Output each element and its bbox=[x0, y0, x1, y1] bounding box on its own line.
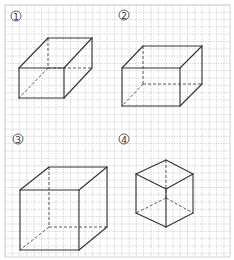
svg-text:2: 2 bbox=[121, 11, 127, 21]
visible-edge bbox=[180, 84, 202, 106]
svg-text:1: 1 bbox=[13, 12, 19, 22]
worksheet-figure: 1 2 3 4 bbox=[0, 0, 234, 260]
visible-edge bbox=[122, 46, 143, 68]
svg-text:4: 4 bbox=[121, 135, 127, 145]
visible-edge bbox=[166, 174, 193, 189]
visible-edge bbox=[79, 167, 107, 190]
hidden-edge bbox=[166, 198, 193, 213]
prism-drawings-on-dot-grid: 1 2 3 4 bbox=[0, 0, 234, 260]
visible-edge bbox=[180, 46, 202, 68]
visible-edge bbox=[166, 160, 193, 174]
dot-grid bbox=[5, 5, 230, 257]
panel-label-2: 2 bbox=[119, 10, 129, 21]
rectangular-prism-1 bbox=[19, 38, 92, 98]
panel-label-4: 4 bbox=[119, 134, 129, 145]
panel-1: 1 bbox=[11, 11, 92, 98]
visible-edge bbox=[19, 38, 48, 68]
panel-label-3: 3 bbox=[13, 134, 23, 145]
panels: 1 2 3 4 bbox=[11, 10, 202, 250]
visible-edge bbox=[166, 213, 193, 227]
hidden-edge bbox=[122, 84, 143, 106]
rectangular-prism-2 bbox=[122, 46, 202, 106]
visible-edge bbox=[20, 167, 49, 190]
visible-edge bbox=[136, 174, 166, 189]
panel-2: 2 bbox=[119, 10, 202, 106]
svg-text:3: 3 bbox=[15, 135, 21, 145]
visible-edge bbox=[136, 213, 166, 227]
hidden-edge bbox=[19, 68, 48, 98]
panel-label-1: 1 bbox=[11, 11, 21, 22]
